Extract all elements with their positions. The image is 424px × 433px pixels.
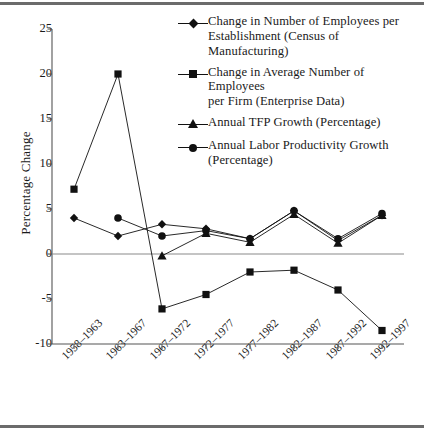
- series-4: [114, 207, 386, 243]
- legend-label-line1: Annual Labor Productivity Growth: [208, 138, 389, 152]
- data-point-marker: [378, 210, 386, 218]
- data-point-marker: [246, 235, 254, 243]
- data-point-marker: [334, 235, 342, 243]
- legend-label-line1: Change in Number of Employees per: [208, 14, 399, 28]
- data-point-marker: [246, 268, 253, 275]
- data-point-marker: [157, 251, 166, 259]
- data-point-marker: [202, 227, 210, 235]
- legend-entry-employees-per-firm: Change in Average Number of Employees pe…: [178, 65, 418, 110]
- legend-label: Change in Average Number of Employees pe…: [208, 65, 418, 110]
- legend-label-line1: Change in Average Number of Employees: [208, 65, 364, 94]
- data-point-marker: [114, 214, 122, 222]
- figure-container: Percentage Change 2520151050-5-10 1958–1…: [0, 0, 424, 433]
- data-point-marker: [334, 286, 341, 293]
- data-point-marker: [290, 207, 298, 215]
- chart-legend: Change in Number of Employees per Establ…: [178, 14, 418, 174]
- series-3: [157, 210, 386, 260]
- legend-key-diamond-icon: [178, 16, 208, 31]
- data-point-marker: [290, 267, 297, 274]
- data-point-marker: [114, 70, 121, 77]
- data-point-marker: [70, 214, 78, 222]
- data-point-marker: [70, 186, 77, 193]
- legend-label-line2: Establishment (Census of Manufacturing): [208, 29, 339, 58]
- legend-label-line2: (Percentage): [208, 153, 273, 167]
- data-point-marker: [378, 327, 385, 334]
- legend-label: Annual TFP Growth (Percentage): [208, 115, 381, 130]
- legend-key-triangle-icon: [178, 117, 208, 132]
- legend-key-circle-icon: [178, 140, 208, 155]
- legend-entry-labor-productivity: Annual Labor Productivity Growth (Percen…: [178, 138, 418, 168]
- series-line: [162, 214, 382, 255]
- legend-label-line2: per Firm (Enterprise Data): [208, 94, 345, 108]
- data-point-marker: [158, 305, 165, 312]
- legend-entry-tfp-growth: Annual TFP Growth (Percentage): [178, 115, 418, 132]
- legend-label: Change in Number of Employees per Establ…: [208, 14, 418, 59]
- legend-label-line1: Annual TFP Growth (Percentage): [208, 115, 381, 129]
- data-point-marker: [158, 232, 166, 240]
- legend-key-square-icon: [178, 67, 208, 82]
- data-point-marker: [202, 291, 209, 298]
- legend-entry-employees-per-establishment: Change in Number of Employees per Establ…: [178, 14, 418, 59]
- legend-label: Annual Labor Productivity Growth (Percen…: [208, 138, 389, 168]
- data-point-marker: [114, 232, 122, 240]
- data-point-marker: [158, 220, 166, 228]
